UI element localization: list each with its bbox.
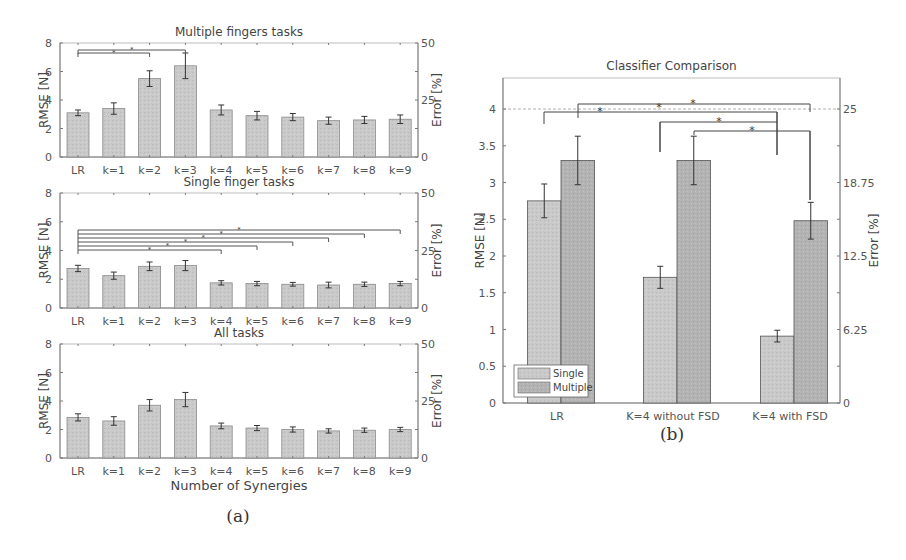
y-tick-label: 8 [45, 187, 52, 200]
x-tick-label: K=4 with FSD [752, 410, 827, 423]
x-tick-label: k=1 [103, 164, 126, 177]
y-right-tick-label: 50 [421, 37, 435, 50]
x-tick-label: k=8 [353, 164, 376, 177]
significance-star: * [148, 246, 152, 254]
legend-swatch [518, 368, 550, 379]
bar [103, 421, 125, 458]
significance-star: * [219, 230, 223, 238]
bar [174, 266, 196, 308]
x-tick-label: k=8 [353, 465, 376, 478]
legend-label: Multiple [553, 382, 593, 393]
bar [103, 276, 125, 308]
y-axis-label: RMSE [N] [473, 212, 487, 268]
y-right-tick-label: 50 [421, 187, 435, 200]
y-tick-label: 0 [45, 302, 52, 315]
x-axis-label: Number of Synergies [171, 478, 308, 493]
bar-single [644, 277, 678, 403]
multiple-fingers-chart: Multiple fingers tasks0246802550RMSE [N]… [37, 25, 444, 177]
y-tick-label: 8 [45, 37, 52, 50]
x-tick-label: k=3 [174, 315, 197, 328]
bar [389, 119, 411, 157]
y-tick-label: 2 [489, 250, 496, 263]
y-right-tick-label: 0 [421, 452, 428, 465]
chart-title: Classifier Comparison [606, 59, 736, 73]
significance-star: * [202, 234, 206, 242]
chart-title: All tasks [214, 326, 264, 340]
y-right-tick-label: 18.75 [843, 177, 875, 190]
x-tick-label: k=1 [103, 465, 126, 478]
bar [139, 79, 161, 157]
figure: Multiple fingers tasks0246802550RMSE [N]… [0, 0, 906, 560]
x-tick-label: k=6 [282, 315, 305, 328]
x-tick-label: k=7 [317, 465, 340, 478]
bar [282, 284, 304, 308]
bar [318, 285, 340, 308]
significance-bracket [694, 131, 810, 200]
bar [139, 266, 161, 308]
x-tick-label: K=4 without FSD [626, 410, 719, 423]
significance-star: * [166, 242, 170, 250]
bar-multiple [677, 160, 711, 403]
x-tick-label: k=3 [174, 465, 197, 478]
x-tick-label: k=2 [138, 315, 161, 328]
bar [353, 120, 375, 157]
y-right-tick-label: 0 [421, 302, 428, 315]
significance-star: * [184, 238, 188, 246]
significance-star: * [690, 97, 696, 110]
x-tick-label: k=2 [138, 164, 161, 177]
y-right-tick-label: 6.25 [843, 324, 868, 337]
y-tick-label: 4 [489, 103, 496, 116]
bar [282, 430, 304, 459]
bar [353, 430, 375, 458]
y-tick-label: 3.5 [479, 140, 497, 153]
legend: SingleMultiple [514, 365, 593, 397]
caption-b: (b) [660, 424, 684, 444]
caption-a: (a) [226, 506, 249, 526]
x-tick-label: LR [71, 315, 85, 328]
y-tick-label: 0 [45, 151, 52, 164]
all-tasks-chart: All tasks0246802550RMSE [N]Error [%]LRk=… [37, 326, 444, 493]
y-tick-label: 1.5 [479, 287, 497, 300]
y-tick-label: 0 [45, 452, 52, 465]
x-tick-label: LR [550, 410, 564, 423]
x-tick-label: k=7 [317, 315, 340, 328]
bar [103, 109, 125, 157]
significance-star: * [749, 124, 755, 137]
x-tick-label: k=6 [282, 465, 305, 478]
y-axis-label: RMSE [N] [37, 72, 51, 128]
bar [353, 284, 375, 308]
bar [246, 116, 268, 157]
bar [246, 428, 268, 458]
bar [67, 417, 89, 458]
chart-title: Single finger tasks [183, 175, 294, 189]
legend-label: Single [553, 368, 584, 379]
y-axis-label: RMSE [N] [37, 373, 51, 429]
x-tick-label: LR [71, 164, 85, 177]
x-tick-label: k=2 [138, 465, 161, 478]
x-tick-label: k=9 [389, 315, 412, 328]
classifier-comparison-chart: Classifier Comparison00.511.522.533.5406… [473, 59, 881, 423]
y-right-tick-label: 12.5 [843, 250, 868, 263]
significance-star: * [237, 226, 241, 234]
y-right-tick-label: 0 [843, 397, 850, 410]
bar [318, 431, 340, 458]
x-tick-label: k=1 [103, 315, 126, 328]
y-right-axis-label: Error [%] [430, 73, 444, 127]
y-tick-label: 8 [45, 338, 52, 351]
significance-star: * [597, 105, 603, 118]
single-finger-chart: Single finger tasks0246802550RMSE [N]Err… [37, 175, 444, 328]
bar [246, 284, 268, 308]
y-right-axis-label: Error [%] [430, 374, 444, 428]
x-tick-label: k=7 [317, 164, 340, 177]
y-right-axis-label: Error [%] [430, 224, 444, 278]
bar [282, 117, 304, 157]
significance-star: * [716, 115, 722, 128]
bar [174, 400, 196, 458]
bar [210, 426, 232, 458]
y-right-tick-label: 25 [843, 103, 857, 116]
bar-multiple [794, 221, 828, 403]
bar [139, 405, 161, 458]
x-tick-label: k=8 [353, 315, 376, 328]
bar [67, 113, 89, 157]
significance-star: * [130, 46, 134, 54]
